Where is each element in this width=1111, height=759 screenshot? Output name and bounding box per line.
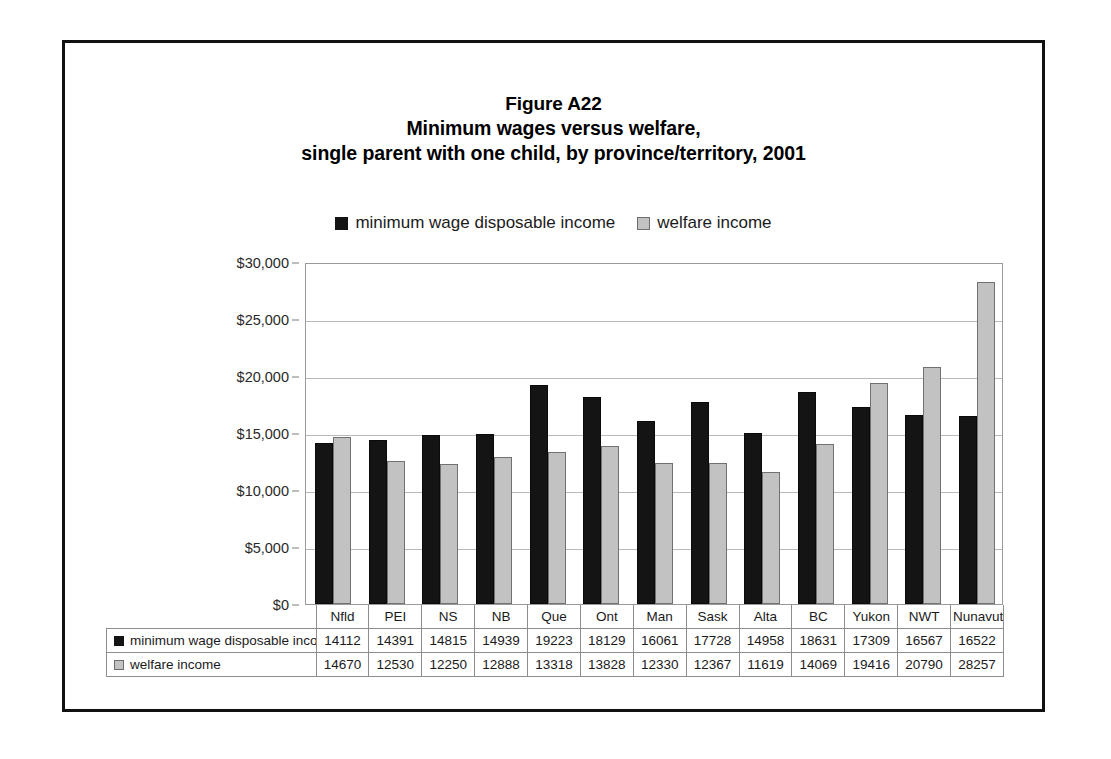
bar-alta-series0[interactable] xyxy=(744,433,762,604)
table-swatch-icon-series1 xyxy=(114,660,124,670)
bar-ont-series0[interactable] xyxy=(583,397,601,604)
bar-ont-series1[interactable] xyxy=(601,446,619,604)
table-cell: 16567 xyxy=(898,629,951,653)
table-cell: 12888 xyxy=(475,653,528,677)
bar-sask-series0[interactable] xyxy=(691,402,709,604)
y-axis-tick-mark xyxy=(292,434,299,435)
table-row-label: welfare income xyxy=(107,653,317,677)
table-cell: 28257 xyxy=(951,653,1004,677)
y-axis: $0$5,000$10,000$15,000$20,000$25,000$30,… xyxy=(195,263,299,605)
bar-group xyxy=(467,264,521,604)
y-axis-tick-mark xyxy=(292,320,299,321)
table-column-header-sask: Sask xyxy=(686,605,739,629)
y-axis-tick-label: $15,000 xyxy=(237,426,289,442)
bar-yukon-series1[interactable] xyxy=(870,383,888,604)
table-column-header-nfld: Nfld xyxy=(316,605,369,629)
y-axis-tick-label: $25,000 xyxy=(237,312,289,328)
bar-group xyxy=(897,264,951,604)
y-axis-tick-mark xyxy=(292,548,299,549)
table-column-header-que: Que xyxy=(528,605,581,629)
table-row-label-text: minimum wage disposable income xyxy=(130,633,316,648)
bar-group xyxy=(360,264,414,604)
bar-nb-series1[interactable] xyxy=(494,457,512,604)
table-cell: 12530 xyxy=(369,653,422,677)
figure-frame: Figure A22 Minimum wages versus welfare,… xyxy=(62,40,1045,712)
bar-nfld-series1[interactable] xyxy=(333,437,351,604)
bar-nunavut-series1[interactable] xyxy=(977,282,995,604)
y-axis-tick-mark xyxy=(292,491,299,492)
table-column-header-man: Man xyxy=(633,605,686,629)
table-cell: 18631 xyxy=(792,629,845,653)
table-row: welfare income14670125301225012888133181… xyxy=(107,653,1004,677)
table-cell: 11619 xyxy=(739,653,792,677)
bar-bc-series0[interactable] xyxy=(798,392,816,604)
plot-area xyxy=(305,263,1003,605)
table-column-header-ns: NS xyxy=(422,605,475,629)
bar-group xyxy=(574,264,628,604)
bar-group xyxy=(682,264,736,604)
table-cell: 20790 xyxy=(898,653,951,677)
table-cell: 13828 xyxy=(580,653,633,677)
table-column-header-ont: Ont xyxy=(580,605,633,629)
table-column-header-bc: BC xyxy=(792,605,845,629)
bar-group xyxy=(306,264,360,604)
table-cell: 14939 xyxy=(475,629,528,653)
table-cell: 14815 xyxy=(422,629,475,653)
table-cell: 12330 xyxy=(633,653,686,677)
bar-group xyxy=(736,264,790,604)
table-cell: 14670 xyxy=(316,653,369,677)
bar-group xyxy=(843,264,897,604)
table-row-label-text: welfare income xyxy=(130,657,221,672)
bar-que-series0[interactable] xyxy=(530,385,548,604)
y-axis-tick-mark xyxy=(292,377,299,378)
table-cell: 17309 xyxy=(845,629,898,653)
table-cell: 17728 xyxy=(686,629,739,653)
bar-group xyxy=(789,264,843,604)
table-row: minimum wage disposable income1411214391… xyxy=(107,629,1004,653)
table-cell: 14069 xyxy=(792,653,845,677)
bar-nb-series0[interactable] xyxy=(476,434,494,604)
table-cell: 14958 xyxy=(739,629,792,653)
table-cell: 16522 xyxy=(951,629,1004,653)
bar-nwt-series0[interactable] xyxy=(905,415,923,604)
bar-pei-series0[interactable] xyxy=(369,440,387,604)
bar-ns-series0[interactable] xyxy=(422,435,440,604)
table-cell: 12367 xyxy=(686,653,739,677)
table-cell: 14391 xyxy=(369,629,422,653)
table-cell: 16061 xyxy=(633,629,686,653)
bar-group xyxy=(413,264,467,604)
table-cell: 18129 xyxy=(580,629,633,653)
bar-nwt-series1[interactable] xyxy=(923,367,941,604)
table-cell: 13318 xyxy=(528,653,581,677)
table-corner-cell xyxy=(107,605,317,629)
table-column-header-nwt: NWT xyxy=(898,605,951,629)
y-axis-tick-label: $5,000 xyxy=(245,540,289,556)
table-column-header-yukon: Yukon xyxy=(845,605,898,629)
table-swatch-icon-series0 xyxy=(114,636,124,646)
bar-nunavut-series0[interactable] xyxy=(959,416,977,604)
table-cell: 14112 xyxy=(316,629,369,653)
bar-sask-series1[interactable] xyxy=(709,463,727,604)
table-column-header-nb: NB xyxy=(475,605,528,629)
bar-man-series0[interactable] xyxy=(637,421,655,604)
bar-pei-series1[interactable] xyxy=(387,461,405,604)
table-column-header-pei: PEI xyxy=(369,605,422,629)
bar-yukon-series0[interactable] xyxy=(852,407,870,604)
bar-bc-series1[interactable] xyxy=(816,444,834,604)
table-column-header-nunavut: Nunavut xyxy=(951,605,1004,629)
bar-group xyxy=(521,264,575,604)
bar-group xyxy=(950,264,1004,604)
table-row-label: minimum wage disposable income xyxy=(107,629,317,653)
bar-alta-series1[interactable] xyxy=(762,472,780,604)
bar-que-series1[interactable] xyxy=(548,452,566,604)
table-cell: 19223 xyxy=(528,629,581,653)
table-cell: 19416 xyxy=(845,653,898,677)
data-table: NfldPEINSNBQueOntManSaskAltaBCYukonNWTNu… xyxy=(106,605,1004,677)
table-cell: 12250 xyxy=(422,653,475,677)
table-column-header-alta: Alta xyxy=(739,605,792,629)
bar-man-series1[interactable] xyxy=(655,463,673,604)
bar-nfld-series0[interactable] xyxy=(315,443,333,604)
bar-group xyxy=(628,264,682,604)
bar-ns-series1[interactable] xyxy=(440,464,458,604)
y-axis-tick-label: $10,000 xyxy=(237,483,289,499)
